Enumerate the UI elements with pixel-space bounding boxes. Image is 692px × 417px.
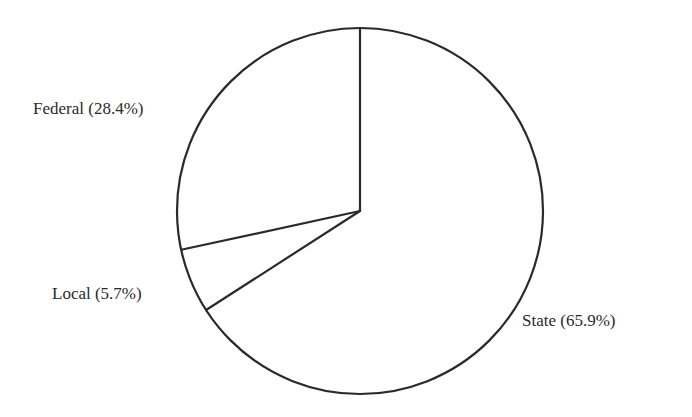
label-federal: Federal (28.4%) (33, 99, 143, 118)
slice-labels: Federal (28.4%) Local (5.7%) State (65.9… (33, 99, 615, 330)
slice-boundary-state (206, 211, 360, 310)
label-local: Local (5.7%) (52, 284, 142, 303)
slice-boundary-local (181, 211, 360, 250)
label-state: State (65.9%) (522, 311, 615, 330)
pie-slices (177, 28, 543, 394)
pie-chart: Federal (28.4%) Local (5.7%) State (65.9… (0, 0, 692, 417)
